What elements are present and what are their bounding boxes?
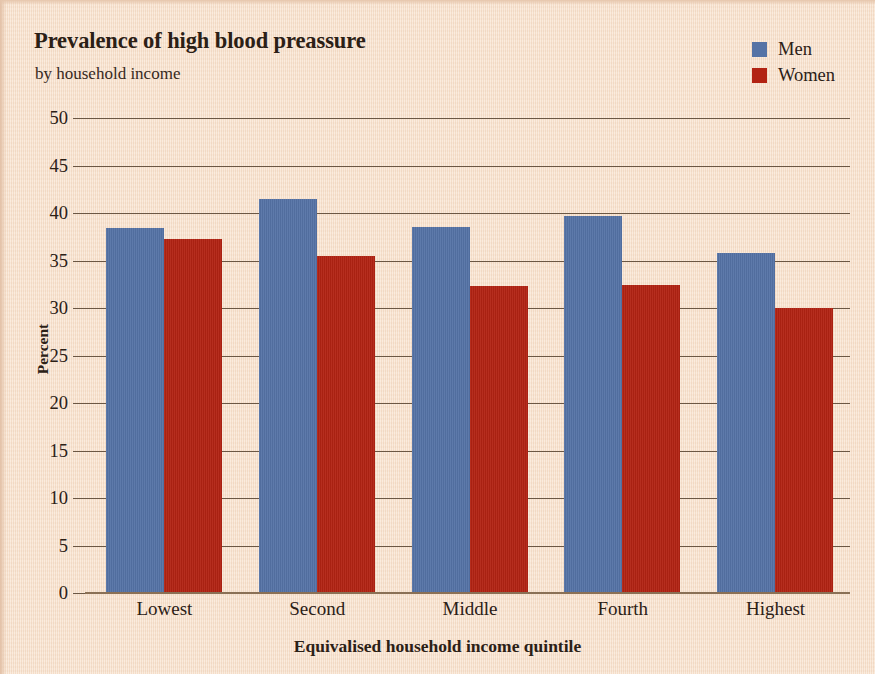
y-axis-tick-label: 0 bbox=[59, 583, 68, 604]
x-axis-line bbox=[85, 592, 850, 594]
bar-women-fourth bbox=[622, 285, 680, 593]
bar-group bbox=[697, 118, 850, 593]
x-axis-tick-label: Second bbox=[239, 598, 392, 620]
bar-men-lowest bbox=[106, 228, 164, 593]
y-axis-tick-label: 20 bbox=[50, 393, 69, 414]
y-axis-tick-label: 50 bbox=[50, 108, 69, 129]
y-axis-tick bbox=[73, 498, 86, 499]
x-axis-tick-label-text: Highest bbox=[746, 598, 805, 619]
x-axis-tick-label: Middle bbox=[392, 598, 545, 620]
page-edge-shading-top bbox=[0, 0, 875, 5]
y-axis-tick bbox=[73, 403, 86, 404]
y-axis-tick-label: 30 bbox=[50, 298, 69, 319]
y-axis-tick bbox=[73, 118, 86, 119]
bar-groups bbox=[86, 118, 850, 593]
legend-item-men: Men bbox=[752, 36, 835, 62]
x-axis-tick-label: Fourth bbox=[544, 598, 697, 620]
y-axis-tick bbox=[73, 546, 86, 547]
y-axis-tick-label: 25 bbox=[50, 345, 69, 366]
x-axis-tick-label-text: Fourth bbox=[597, 598, 648, 619]
y-axis-tick-label: 35 bbox=[50, 250, 69, 271]
legend-swatch-men bbox=[752, 42, 767, 57]
y-axis-tick bbox=[73, 213, 86, 214]
legend-label-men: Men bbox=[778, 40, 812, 59]
y-axis-tick bbox=[73, 356, 86, 357]
x-axis-tick-label-text: Second bbox=[289, 598, 345, 619]
plot-area: 50454035302520151050 bbox=[86, 118, 850, 593]
bar-men-middle bbox=[412, 227, 470, 593]
chart-title: Prevalence of high blood preassure bbox=[34, 28, 366, 54]
x-axis-tick-label: Lowest bbox=[86, 598, 239, 620]
chart-figure: Prevalence of high blood preassure by ho… bbox=[0, 0, 875, 674]
bar-women-second bbox=[317, 256, 375, 593]
y-axis-tick-label: 10 bbox=[50, 488, 69, 509]
x-axis-tick-labels: LowestSecondMiddleFourthHighest bbox=[86, 598, 850, 620]
bar-group bbox=[239, 118, 392, 593]
legend-label-women: Women bbox=[778, 66, 835, 85]
bar-women-middle bbox=[470, 286, 528, 593]
bar-women-highest bbox=[775, 308, 833, 593]
y-axis-tick-label: 5 bbox=[59, 535, 68, 556]
x-axis-title: Equivalised household income quintile bbox=[0, 636, 875, 657]
y-axis-tick bbox=[73, 166, 86, 167]
chart-subtitle: by household income bbox=[35, 64, 180, 84]
x-axis-tick-label: Highest bbox=[697, 598, 850, 620]
bar-men-highest bbox=[717, 253, 775, 593]
y-axis-tick-label: 15 bbox=[50, 440, 69, 461]
legend-item-women: Women bbox=[752, 62, 835, 88]
y-axis-tick bbox=[73, 451, 86, 452]
bar-group bbox=[86, 118, 239, 593]
bar-men-fourth bbox=[564, 216, 622, 593]
y-axis-tick-label: 45 bbox=[50, 155, 69, 176]
y-axis-tick bbox=[73, 308, 86, 309]
bar-group bbox=[544, 118, 697, 593]
x-axis-tick-label-text: Middle bbox=[443, 598, 498, 619]
page-edge-shading-left bbox=[0, 0, 6, 674]
y-axis-tick bbox=[73, 261, 86, 262]
y-axis-tick-label: 40 bbox=[50, 203, 69, 224]
bar-men-second bbox=[259, 199, 317, 593]
bar-women-lowest bbox=[164, 239, 222, 593]
x-axis-tick-label-text: Lowest bbox=[136, 598, 192, 619]
legend-swatch-women bbox=[752, 68, 767, 83]
bar-group bbox=[392, 118, 545, 593]
chart-legend: Men Women bbox=[752, 36, 835, 88]
